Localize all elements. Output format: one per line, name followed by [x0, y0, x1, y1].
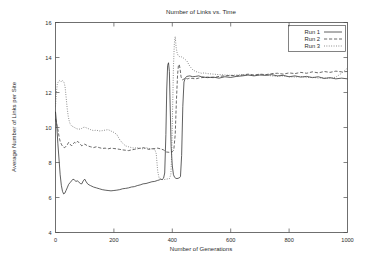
legend-label-run-3: Run 3 [305, 43, 320, 49]
legend-label-run-1: Run 1 [305, 29, 320, 35]
x-tick-label: 0 [54, 237, 57, 243]
y-tick-label: 4 [48, 230, 51, 236]
links-vs-time-line-chart: Number of Links vs. Time Number of Gener… [0, 0, 366, 262]
y-tick-label: 10 [45, 125, 51, 131]
legend-label-run-2: Run 2 [305, 36, 320, 42]
y-axis-label: Average Number of Links per Site [11, 81, 17, 172]
x-tick-label: 600 [226, 237, 235, 243]
y-tick-label: 16 [45, 20, 51, 26]
y-tick-label: 12 [45, 90, 51, 96]
x-axis-label: Number of Generations [170, 246, 232, 252]
x-tick-label: 200 [109, 237, 118, 243]
x-tick-label: 1000 [341, 237, 353, 243]
x-tick-label: 400 [168, 237, 177, 243]
chart-title: Number of Links vs. Time [166, 8, 236, 15]
x-tick-label: 800 [284, 237, 293, 243]
chart-container: Number of Links vs. Time Number of Gener… [0, 0, 366, 262]
y-tick-label: 8 [48, 160, 51, 166]
y-tick-label: 14 [45, 55, 51, 61]
y-tick-label: 6 [48, 195, 51, 201]
